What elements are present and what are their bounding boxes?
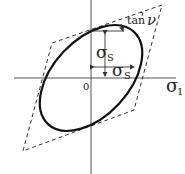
tan-label: tan: [127, 14, 145, 27]
nu-label: ν: [147, 11, 156, 29]
origin-label: 0: [83, 81, 89, 92]
yield-ellipse-diagram: tan ν σ S σ S 0 σ 1: [0, 0, 185, 174]
sigma-s-horizontal-label: σ: [112, 60, 124, 80]
sigma1-sub: 1: [177, 86, 183, 97]
sigma-s-horizontal-sub: S: [124, 70, 131, 81]
